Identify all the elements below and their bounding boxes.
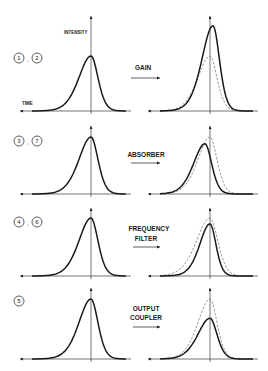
output-pulse-curve (160, 224, 253, 276)
step-number: 7 (35, 138, 39, 144)
input-pulse-plot (20, 288, 131, 362)
output-pulse-curve (160, 26, 253, 111)
row-output-coupler: 5 OUTPUT COUPLER (14, 288, 258, 362)
step-badges: 3 , 7 (14, 136, 42, 146)
output-pulse-plot (148, 16, 258, 114)
element-label: ABSORBER (127, 151, 165, 158)
element-label-line1: FREQUENCY (129, 225, 170, 233)
reference-pulse-dashed-curve (160, 299, 253, 359)
element-label-line2: COUPLER (130, 314, 162, 321)
row-frequency-filter: 4 , 6 FREQUENCY FILTER (14, 208, 258, 279)
input-pulse-curve (32, 218, 126, 276)
row-gain: 1 , 2 INTENSITY TIME GAIN (14, 16, 258, 114)
input-pulse-plot (20, 126, 131, 197)
output-pulse-curve (160, 144, 253, 194)
output-pulse-plot (148, 288, 258, 362)
step-number: 6 (35, 219, 39, 225)
step-number: 5 (17, 298, 21, 304)
step-separator: , (27, 139, 29, 145)
step-number: 2 (35, 55, 39, 61)
element-label-line1: OUTPUT (133, 305, 160, 312)
step-number: 1 (17, 55, 21, 61)
output-pulse-plot (148, 208, 258, 279)
intensity-axis-label: INTENSITY (64, 30, 88, 35)
element-label-line2: FILTER (135, 235, 158, 242)
input-pulse-curve (32, 56, 126, 111)
input-pulse-curve (32, 299, 126, 359)
input-pulse-curve (32, 137, 126, 194)
output-pulse-curve (160, 318, 253, 359)
step-number: 3 (17, 138, 21, 144)
reference-pulse-dashed-curve (160, 56, 253, 111)
pulse-shaping-diagram: 1 , 2 INTENSITY TIME GAIN 3 , 7 ABSORBER… (0, 0, 268, 371)
output-pulse-plot (148, 126, 258, 197)
step-number: 4 (17, 219, 21, 225)
step-separator: , (27, 56, 29, 62)
step-badges: 5 (14, 296, 24, 306)
step-separator: , (27, 220, 29, 226)
row-absorber: 3 , 7 ABSORBER (14, 126, 258, 197)
step-badges: 1 , 2 (14, 53, 42, 63)
time-axis-label: TIME (22, 101, 33, 106)
step-badges: 4 , 6 (14, 217, 42, 227)
element-label: GAIN (135, 64, 152, 71)
